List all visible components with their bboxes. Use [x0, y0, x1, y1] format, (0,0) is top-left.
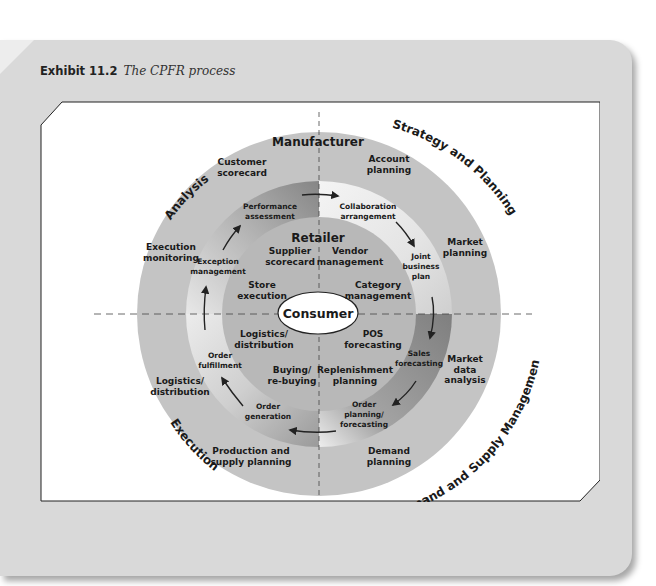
task-account-planning: Accountplanning: [367, 154, 411, 175]
manufacturer-title: Manufacturer: [272, 135, 364, 149]
consumer-label: Consumer: [283, 306, 355, 321]
task-production-supply-planning: Production andsupply planning: [210, 446, 291, 467]
task-logistics-distribution-retail: Logistics/distribution: [234, 329, 294, 350]
exhibit-title: The CPFR process: [123, 64, 235, 78]
task-logistics-distribution-mfr: Logistics/distribution: [150, 376, 210, 397]
task-execution-monitoring: Executionmonitoring: [143, 242, 199, 263]
exhibit-number: Exhibit 11.2: [40, 64, 117, 78]
task-demand-planning: Demandplanning: [367, 446, 411, 467]
exhibit-caption: Exhibit 11.2The CPFR process: [40, 64, 235, 78]
retailer-title: Retailer: [291, 231, 345, 245]
task-supplier-scorecard: Supplierscorecard: [265, 246, 315, 267]
cpfr-diagram: Consumer Manufacturer Retailer Analysis …: [40, 101, 600, 502]
task-performance-assessment: Performanceassessment: [243, 202, 297, 221]
task-collaboration-arrangement: Collaborationarrangement: [340, 202, 397, 221]
task-exception-management: Exceptionmanagement: [190, 257, 246, 276]
task-customer-scorecard: Customerscorecard: [217, 157, 267, 178]
task-buying-rebuying: Buying/re-buying: [268, 365, 317, 386]
card-corner-fold: [0, 40, 34, 74]
task-market-planning: Marketplanning: [443, 237, 487, 258]
